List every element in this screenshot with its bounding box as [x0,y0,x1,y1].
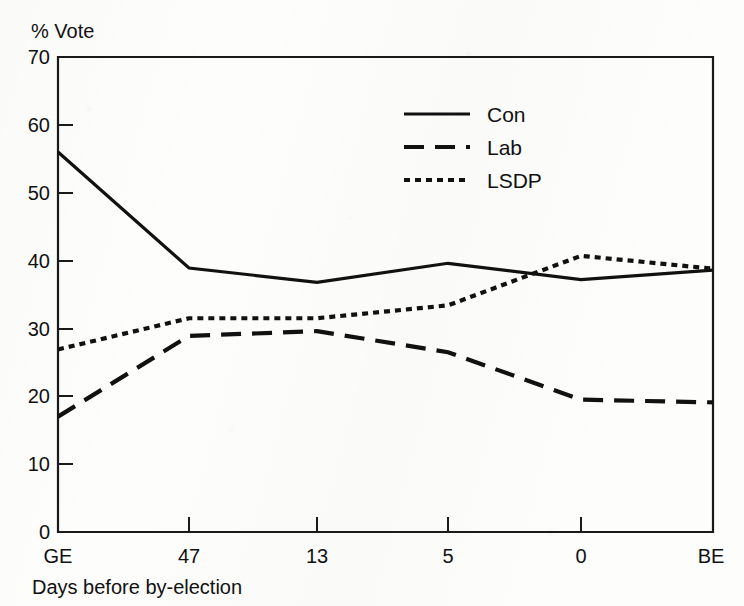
y-tick-label-20: 20 [28,385,50,407]
y-axis-title: % Vote [31,20,94,42]
y-tick-label-70: 70 [28,46,50,68]
y-tick-label-10: 10 [28,453,50,475]
plot-frame [58,57,713,532]
y-tick-label-30: 30 [28,318,50,340]
y-axis-tick-labels: 0 10 20 30 40 50 60 70 [28,46,50,543]
legend-label-con: Con [487,103,526,126]
x-tick-label-5: 5 [442,545,453,567]
series-line-lab [58,331,713,417]
x-axis-title: Days before by-election [32,576,242,598]
x-tick-label-be: BE [698,545,725,567]
legend-label-lab: Lab [487,136,522,159]
series-line-con [58,152,713,282]
y-axis-ticks [58,125,73,532]
series-group [58,152,713,417]
x-tick-label-13: 13 [306,545,328,567]
y-tick-label-50: 50 [28,182,50,204]
legend-label-lsdp: LSDP [487,169,542,192]
chart-page: 0 10 20 30 40 50 60 70 % Vote GE 47 13 5… [0,0,744,606]
x-tick-label-47: 47 [178,545,200,567]
x-axis-ticks [189,517,581,532]
x-tick-label-ge: GE [44,545,73,567]
series-line-lsdp [58,256,713,350]
legend: Con Lab LSDP [404,103,542,192]
y-tick-label-40: 40 [28,250,50,272]
y-tick-label-60: 60 [28,114,50,136]
y-tick-label-0: 0 [39,521,50,543]
line-chart: 0 10 20 30 40 50 60 70 % Vote GE 47 13 5… [0,0,744,606]
x-tick-label-0: 0 [575,545,586,567]
x-axis-tick-labels: GE 47 13 5 0 BE [44,545,725,567]
